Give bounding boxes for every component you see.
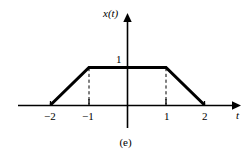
x-tick-label-pos1: 1 xyxy=(164,111,170,122)
figure-caption: (e) xyxy=(0,136,251,148)
amplitude-label: 1 xyxy=(116,54,122,65)
x-tick-label-neg1: −1 xyxy=(82,111,94,122)
x-axis-label: t xyxy=(236,110,239,121)
x-tick-label-pos2: 2 xyxy=(202,111,208,122)
x-tick-label-neg2: −2 xyxy=(44,111,56,122)
y-axis-arrow-icon xyxy=(123,13,131,22)
y-axis-label: x(t) xyxy=(103,8,118,19)
figure-container: x(t) t 1 −2 −1 1 2 (e) xyxy=(0,0,251,159)
